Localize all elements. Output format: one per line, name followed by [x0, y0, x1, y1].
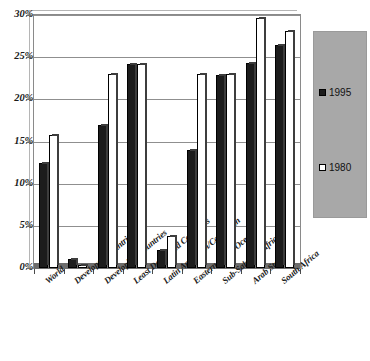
bar-1995: [127, 64, 136, 268]
bar-1980: [78, 265, 87, 268]
bar-1980: [167, 236, 176, 268]
bar-1980: [285, 31, 294, 268]
bar-1980: [49, 135, 58, 268]
legend-entry-1980: 1980: [319, 162, 351, 173]
bar-1980: [197, 74, 206, 268]
bar-1980: [226, 74, 235, 268]
legend-swatch-1980-icon: [319, 164, 326, 171]
bar-chart: 0%5%10%15%20%25%30% WorldDeveloped Count…: [0, 0, 370, 361]
bar-1995: [68, 259, 77, 268]
legend-label-1980: 1980: [329, 162, 351, 173]
bar-1995: [246, 63, 255, 268]
bar-1995: [157, 250, 166, 268]
bar-1995: [187, 150, 196, 268]
legend: 1995 1980: [313, 31, 367, 218]
bar-1995: [216, 75, 225, 268]
bar-1995: [275, 45, 284, 268]
legend-swatch-1995-icon: [319, 89, 326, 96]
bar-group: [275, 15, 296, 268]
legend-label-1995: 1995: [329, 87, 351, 98]
bar-1980: [137, 64, 146, 268]
bar-1995: [98, 125, 107, 268]
bar-1980: [256, 18, 265, 268]
bar-1980: [108, 74, 117, 268]
legend-entry-1995: 1995: [319, 87, 351, 98]
bar-1995: [39, 163, 48, 268]
